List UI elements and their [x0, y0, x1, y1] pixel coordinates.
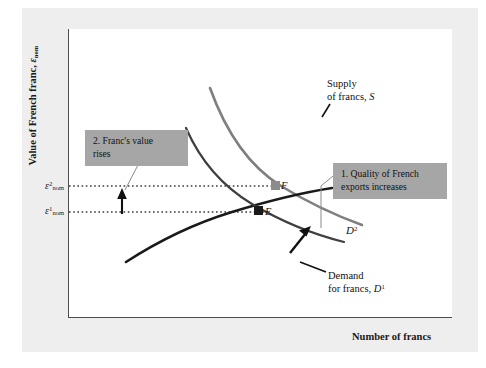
supply-curve — [210, 88, 362, 225]
callout-quality-leader — [321, 176, 333, 228]
equilibrium-point-F-label: F — [281, 180, 287, 191]
demand-curve-1 — [126, 188, 332, 262]
demand-shift-arrow — [290, 226, 311, 253]
callout-franc-value-rises: 2. Franc's value rises — [85, 130, 188, 166]
figure-container: Value of French franc, εnom Number of fr… — [0, 0, 486, 368]
supply-label-leader — [322, 104, 330, 117]
equilibrium-point-E-marker — [254, 206, 263, 215]
demand-label-leader — [300, 262, 326, 272]
demand-curve-2-label: D2 — [346, 224, 357, 236]
supply-curve-label: Supply of francs, S — [327, 77, 375, 104]
equilibrium-point-E-label: E — [265, 206, 271, 217]
callout-quality-of-exports: 1. Quality of French exports increases — [333, 163, 447, 199]
demand-curve-1-label: Demand for francs, D1 — [328, 269, 385, 296]
equilibrium-point-F-marker — [271, 181, 280, 190]
callout-franc-value-leader — [125, 165, 138, 190]
franc-value-rise-arrow — [117, 188, 127, 214]
demand-curve-2 — [186, 128, 344, 242]
